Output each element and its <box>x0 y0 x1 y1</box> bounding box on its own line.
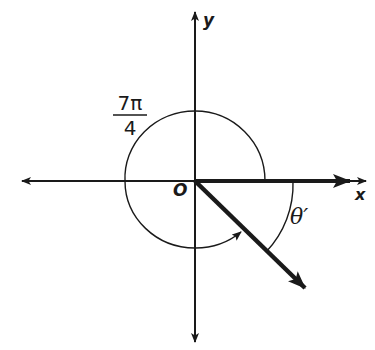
origin-label: O <box>173 180 187 200</box>
reference-angle-label: θ′ <box>290 204 308 229</box>
angle-denominator: 4 <box>124 116 137 140</box>
x-axis-label: x <box>354 185 366 204</box>
angle-label-fraction: 7π 4 <box>113 91 147 140</box>
angle-numerator: 7π <box>118 91 143 115</box>
terminal-side-ray <box>195 181 305 288</box>
y-axis-label: y <box>203 10 215 30</box>
angle-diagram: y x O 7π 4 θ′ <box>0 0 375 350</box>
reference-angle-arc <box>266 181 293 252</box>
